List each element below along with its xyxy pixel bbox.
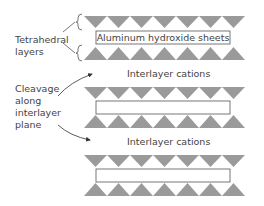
cleavage-label-line4: plane — [15, 119, 61, 131]
tetrahedral-row-top-1 — [84, 16, 245, 28]
aluminum-hydroxide-sheet-2 — [96, 101, 230, 114]
aluminum-hydroxide-sheet-3 — [96, 169, 230, 182]
tetrahedral-row-bottom-1 — [84, 47, 245, 60]
tetrahedral-row-top-2 — [84, 87, 245, 99]
cleavage-label-line1: Cleavage — [15, 83, 61, 95]
cleavage-label-line3: interlayer — [15, 107, 61, 119]
interlayer-cations-label-1: Interlayer cations — [127, 68, 210, 79]
tetrahedral-layers-label: Tetrahedral layers — [15, 34, 69, 58]
cleavage-arrow-up-icon — [58, 74, 92, 96]
tetrahedral-label-line2: layers — [15, 46, 69, 58]
interlayer-cations-label-2: Interlayer cations — [127, 136, 210, 147]
tetrahedral-label-line1: Tetrahedral — [15, 34, 69, 46]
layer-unit-3 — [84, 155, 245, 196]
aluminum-hydroxide-sheets-label: Aluminum hydroxide sheets — [96, 31, 230, 44]
cleavage-label-line2: along — [15, 95, 61, 107]
layer-unit-2 — [84, 87, 245, 128]
tetrahedral-row-bottom-2 — [84, 115, 245, 128]
tetrahedral-row-top-3 — [84, 155, 245, 167]
tetrahedral-row-bottom-3 — [84, 183, 245, 196]
cleavage-label: Cleavage along interlayer plane — [15, 83, 61, 131]
